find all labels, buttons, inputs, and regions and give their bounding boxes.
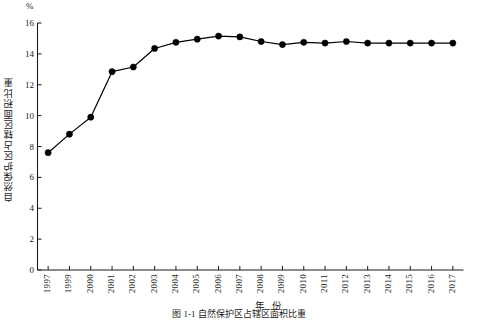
x-axis-tick-label: 2004	[171, 274, 180, 293]
x-axis-tick-label: 2010	[299, 274, 308, 293]
x-axis-tick-label: 1997	[43, 274, 52, 293]
x-axis-tick-label: 2013	[363, 274, 372, 293]
x-axis-tick-label: 1999	[64, 274, 73, 293]
x-axis-tick-label: 2008	[256, 274, 265, 293]
x-axis-tick-label: 2014	[384, 274, 393, 293]
x-axis-tick-label: 2011	[320, 274, 329, 293]
x-axis-tick-label: 2007	[235, 274, 244, 293]
x-axis-tick-label: 2012	[341, 274, 350, 293]
x-axis-tick-label: 2002	[128, 274, 137, 293]
figure-caption: 图 1-1 自然保护区占辖区面积比重	[0, 309, 478, 320]
x-axis-tick-label: 2016	[427, 274, 436, 293]
x-axis-tick-label: 2015	[405, 274, 414, 293]
x-axis-tick-label: 2000	[86, 274, 95, 293]
x-axis-tick-label: 2017	[448, 274, 457, 293]
x-axis-tick-label: 2009	[277, 274, 286, 293]
x-axis-tick-label: 2005	[192, 274, 201, 293]
x-axis-tick-label: 2001	[107, 274, 116, 293]
x-axis-tick-label: 2003	[150, 274, 159, 293]
x-axis-tick-label: 2006	[214, 274, 223, 293]
